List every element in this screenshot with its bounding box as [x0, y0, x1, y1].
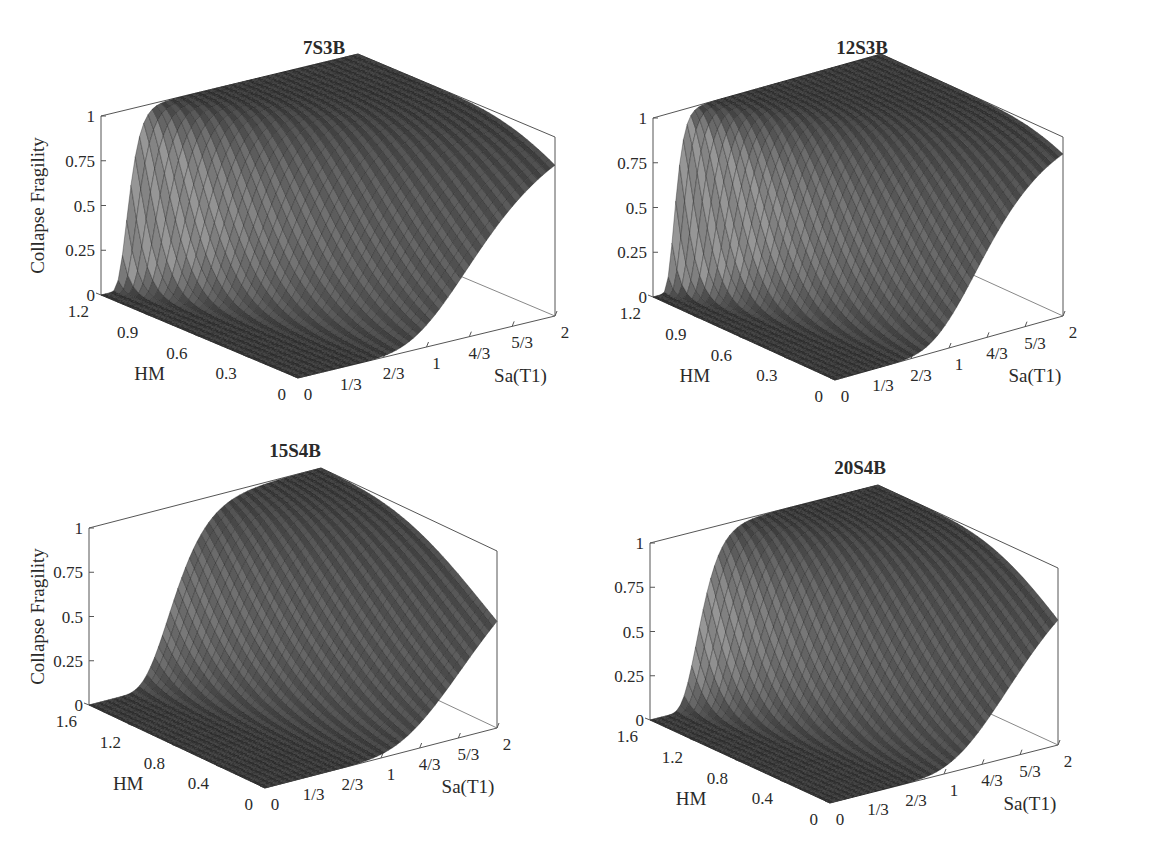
fragility-surface [650, 485, 1058, 803]
sa-tick-label: 1 [387, 765, 396, 784]
z-tick-label: 0.75 [65, 152, 95, 171]
hm-axis-label: HM [680, 365, 711, 386]
hm-tick-label: 0.8 [707, 769, 728, 788]
z-tick-label: 0.25 [53, 652, 83, 671]
z-tick-label: 1 [75, 519, 84, 538]
sa-axis-label: Sa(T1) [1003, 793, 1056, 815]
sa-tick-label: 0 [304, 385, 313, 404]
panel-title: 15S4B [269, 440, 321, 461]
sa-tick-label: 1/3 [303, 785, 325, 804]
sa-tick-label: 4/3 [981, 771, 1003, 790]
sa-axis-label: Sa(T1) [442, 776, 495, 798]
z-tick-label: 0.5 [62, 608, 83, 627]
panel-20s4b: 00.250.50.75100.40.81.21.601/32/314/35/3… [614, 457, 1072, 829]
z-tick-label: 0.25 [614, 667, 644, 686]
z-tick-label: 0.75 [617, 154, 647, 173]
hm-tick-label: 0 [810, 810, 819, 829]
sa-tick-label: 1 [950, 781, 959, 800]
hm-tick-label: 1.6 [617, 727, 638, 746]
sa-tick-label: 1/3 [872, 376, 894, 395]
sa-tick-label: 2 [1064, 752, 1073, 771]
hm-tick-label: 0.3 [216, 364, 237, 383]
z-tick-label: 0.75 [53, 563, 83, 582]
z-axis-label: Collapse Fragility [27, 137, 48, 274]
sa-tick-label: 0 [271, 795, 280, 814]
sa-tick-label: 1/3 [340, 375, 362, 394]
z-tick-label: 0.5 [626, 199, 647, 218]
panel-12s3b: 00.250.50.75100.30.60.91.201/32/314/35/3… [617, 37, 1077, 406]
sa-axis-label: Sa(T1) [494, 365, 547, 387]
sa-tick-label: 4/3 [419, 755, 441, 774]
hm-tick-label: 1.2 [662, 748, 683, 767]
panel-title: 20S4B [834, 457, 886, 478]
z-tick-label: 0.25 [617, 243, 647, 262]
fragility-surface [89, 468, 497, 788]
sa-tick-label: 2/3 [383, 364, 405, 383]
sa-tick-label: 2/3 [341, 775, 363, 794]
sa-tick-label: 2 [561, 323, 570, 342]
z-tick-label: 1 [636, 534, 645, 553]
z-tick-label: 1 [87, 107, 96, 126]
hm-tick-label: 0 [278, 385, 287, 404]
sa-tick-label: 4/3 [468, 344, 490, 363]
sa-tick-label: 2/3 [910, 366, 932, 385]
hm-tick-label: 1.2 [620, 304, 641, 323]
sa-tick-label: 0 [841, 387, 850, 406]
hm-axis-label: HM [134, 363, 165, 384]
sa-tick-label: 2 [503, 735, 512, 754]
z-tick-label: 0.25 [65, 241, 95, 260]
sa-tick-label: 5/3 [1024, 334, 1046, 353]
z-tick-label: 0.5 [623, 623, 644, 642]
hm-tick-label: 0.6 [711, 346, 732, 365]
sa-tick-label: 4/3 [986, 344, 1008, 363]
sa-tick-label: 1 [955, 355, 964, 374]
z-tick-label: 0.75 [614, 578, 644, 597]
panel-15s4b: 00.250.50.75100.40.81.21.601/32/314/35/3… [27, 440, 511, 814]
hm-tick-label: 1.2 [68, 302, 89, 321]
sa-axis-label: Sa(T1) [1008, 365, 1061, 387]
sa-tick-label: 5/3 [457, 745, 479, 764]
hm-tick-label: 0.8 [144, 754, 165, 773]
sa-tick-label: 2 [1069, 323, 1078, 342]
hm-tick-label: 0.6 [166, 344, 187, 363]
hm-tick-label: 0.3 [756, 366, 777, 385]
panel-7s3b: 00.250.50.75100.30.60.91.201/32/314/35/3… [27, 37, 569, 404]
hm-tick-label: 1.2 [100, 733, 121, 752]
fragility-surface [653, 54, 1063, 380]
sa-tick-label: 1 [432, 354, 441, 373]
hm-tick-label: 0.4 [188, 774, 210, 793]
hm-tick-label: 1.6 [56, 712, 77, 731]
fragility-figure: 00.250.50.75100.30.60.91.201/32/314/35/3… [0, 0, 1155, 851]
z-tick-label: 1 [639, 109, 648, 128]
sa-tick-label: 0 [836, 810, 845, 829]
hm-tick-label: 0.9 [665, 325, 686, 344]
hm-axis-label: HM [113, 773, 144, 794]
sa-tick-label: 2/3 [905, 791, 927, 810]
z-tick-label: 0.5 [74, 197, 95, 216]
sa-tick-label: 5/3 [511, 333, 533, 352]
panel-title: 12S3B [836, 37, 888, 58]
sa-tick-label: 5/3 [1019, 762, 1041, 781]
hm-tick-label: 0.9 [117, 323, 138, 342]
panel-title: 7S3B [303, 37, 346, 58]
hm-tick-label: 0.4 [752, 789, 774, 808]
sa-tick-label: 1/3 [867, 800, 889, 819]
z-axis-label: Collapse Fragility [27, 548, 48, 685]
fragility-surface [101, 54, 555, 378]
hm-axis-label: HM [676, 788, 707, 809]
hm-tick-label: 0 [815, 387, 824, 406]
hm-tick-label: 0 [245, 795, 254, 814]
